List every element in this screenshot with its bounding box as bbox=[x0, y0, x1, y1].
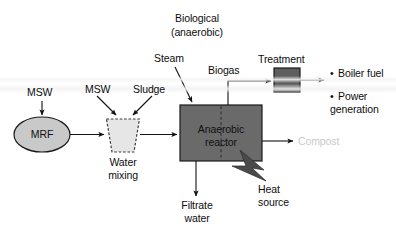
msw-to-mrf-label: MSW bbox=[27, 86, 52, 99]
arrow-sludge-to-water-mixing bbox=[133, 96, 152, 115]
mrf-node-label: MRF bbox=[22, 128, 62, 141]
reactor-label-line2: reactor bbox=[181, 136, 261, 149]
heat-source-label-line1: Heat bbox=[258, 183, 280, 196]
water-mixing-node-shape bbox=[107, 119, 140, 152]
output-bullet-1-marker: • bbox=[330, 90, 334, 103]
diagram-title-line2: (anaerobic) bbox=[151, 26, 243, 39]
output-bullet-1-line2: generation bbox=[330, 103, 379, 116]
output-bullet-1-line1: Power bbox=[338, 90, 367, 103]
steam-label: Steam bbox=[154, 52, 184, 65]
output-bullet-0-line1: Boiler fuel bbox=[338, 67, 384, 80]
filtrate-label-line1: Filtrate bbox=[171, 199, 223, 212]
msw-to-mixing-label: MSW bbox=[85, 83, 110, 96]
diagram-title-line1: Biological bbox=[151, 12, 243, 25]
arrow-biogas-to-treatment bbox=[228, 81, 271, 105]
water-mixing-label-line2: mixing bbox=[98, 169, 148, 182]
biogas-label: Biogas bbox=[208, 64, 240, 77]
arrow-steam-to-reactor bbox=[175, 67, 192, 102]
water-mixing-label-line1: Water bbox=[98, 156, 148, 169]
filtrate-label-line2: water bbox=[171, 212, 223, 225]
output-bullet-0-marker: • bbox=[330, 67, 334, 80]
compost-label: Compost bbox=[298, 135, 339, 148]
arrow-msw-to-water-mixing bbox=[97, 96, 116, 115]
process-flow-diagram: Biological (anaerobic) Steam Biogas Trea… bbox=[0, 0, 396, 238]
sludge-label: Sludge bbox=[133, 83, 165, 96]
treatment-node-shape bbox=[274, 68, 300, 92]
heat-source-label-line2: source bbox=[258, 196, 289, 209]
reactor-label-line1: Anaerobic bbox=[181, 123, 261, 136]
treatment-label: Treatment bbox=[258, 53, 305, 66]
